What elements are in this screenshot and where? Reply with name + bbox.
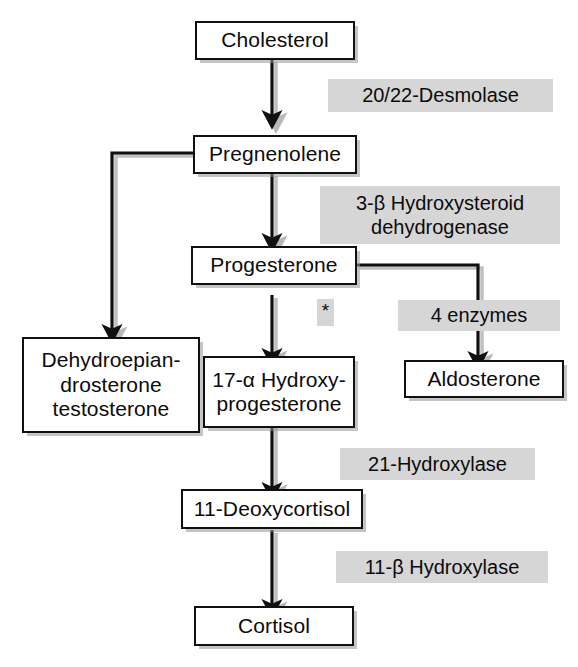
node-pregnenolene-label: Pregnenolene bbox=[203, 142, 347, 166]
node-cholesterol-label: Cholesterol bbox=[215, 28, 334, 52]
pathway-diagram: 20/22-Desmolase 3-β Hydroxysteroid dehyd… bbox=[0, 0, 578, 667]
node-progesterone: Progesterone bbox=[191, 246, 357, 285]
node-pregnenolene: Pregnenolene bbox=[193, 135, 357, 174]
node-dehydroepiandrosterone-testosterone: Dehydroepian- drosterone testosterone bbox=[22, 337, 200, 433]
enzyme-label-3-beta-hydroxysteroid-dehydrogenase: 3-β Hydroxysteroid dehydrogenase bbox=[320, 186, 560, 244]
node-cholesterol: Cholesterol bbox=[195, 21, 355, 60]
node-aldosterone-label: Aldosterone bbox=[421, 367, 546, 391]
enzyme-label-4-enzymes: 4 enzymes bbox=[398, 300, 560, 331]
enzyme-label-21-hydroxylase: 21-Hydroxylase bbox=[340, 448, 535, 480]
node-11-deoxycortisol-label: 11-Deoxycortisol bbox=[188, 497, 356, 521]
enzyme-label-desmolase: 20/22-Desmolase bbox=[328, 79, 553, 112]
asterisk-annotation: * bbox=[317, 299, 334, 326]
arrow-pregnenolene-to-dhea bbox=[112, 153, 193, 331]
node-11-deoxycortisol: 11-Deoxycortisol bbox=[181, 489, 363, 529]
node-aldosterone: Aldosterone bbox=[404, 360, 564, 398]
enzyme-label-11-beta-hydroxylase: 11-β Hydroxylase bbox=[336, 551, 548, 583]
node-progesterone-label: Progesterone bbox=[204, 253, 343, 277]
node-dehydroepiandrosterone-testosterone-label: Dehydroepian- drosterone testosterone bbox=[35, 348, 186, 421]
node-cortisol-label: Cortisol bbox=[232, 614, 316, 638]
node-17-alpha-hydroxyprogesterone-label: 17-α Hydroxy- progesterone bbox=[206, 368, 352, 417]
node-17-alpha-hydroxyprogesterone: 17-α Hydroxy- progesterone bbox=[203, 356, 355, 428]
node-cortisol: Cortisol bbox=[194, 606, 354, 646]
